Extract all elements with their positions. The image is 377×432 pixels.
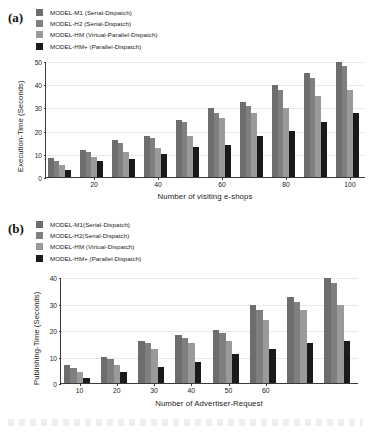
legend-item-label: MODEL-H2 (Serial-Dispatch): [50, 20, 131, 27]
x-tick-label: 60: [218, 181, 226, 188]
bar: [129, 159, 135, 177]
bar: [120, 372, 127, 383]
y-tick-mark: [44, 178, 47, 179]
panel-a-y-axis-title: Execution-Time (Seconds): [16, 80, 25, 172]
x-tick-label: 30: [150, 387, 158, 394]
bar: [269, 349, 276, 383]
y-tick-mark: [59, 384, 62, 385]
x-tick-label: 50: [225, 387, 233, 394]
bar: [161, 154, 167, 177]
legend-item-label: MODEL-M1(Serial-Dispatch): [50, 221, 130, 228]
bar: [83, 378, 90, 383]
bar: [232, 354, 239, 383]
bar: [195, 362, 202, 383]
legend-item: MODEL-H2(Serial-Dispatch): [36, 230, 141, 241]
y-tick-mark: [59, 358, 62, 359]
bar: [225, 145, 231, 177]
panel-b-y-axis-title: Publishing-Time (Seconds): [32, 292, 41, 385]
x-tick-label: 40: [188, 387, 196, 394]
y-tick-mark: [59, 278, 62, 279]
y-tick-label: 30: [50, 301, 57, 308]
legend-item: MODEL-HM (Virtual-Dispatch): [36, 241, 141, 252]
bar: [97, 161, 103, 177]
legend-swatch-icon: [36, 9, 43, 16]
x-tick-label: 40: [154, 181, 162, 188]
bar: [65, 170, 71, 177]
y-tick-mark: [59, 331, 62, 332]
legend-swatch-icon: [36, 20, 43, 27]
x-tick-mark: [117, 383, 118, 386]
legend-item-label: MODEL-H2(Serial-Dispatch): [50, 232, 129, 239]
legend-item-label: MODEL-HM+ (Parallel-Dispatch): [50, 43, 141, 50]
y-tick-mark: [44, 62, 47, 63]
y-tick-mark: [44, 132, 47, 133]
bar: [289, 131, 295, 177]
gridline: [61, 278, 358, 279]
panel-a-tag: (a): [8, 10, 23, 26]
x-tick-label: 20: [90, 181, 98, 188]
gridline: [46, 62, 365, 63]
panel-b: (b) MODEL-M1(Serial-Dispatch) MODEL-H2(S…: [0, 216, 377, 432]
x-tick-label: 100: [344, 181, 355, 188]
x-tick-mark: [350, 177, 351, 180]
panel-a-legend: MODEL-M1 (Serial-Dispatch) MODEL-H2 (Ser…: [36, 7, 158, 52]
legend-swatch-icon: [36, 255, 43, 262]
x-tick-mark: [80, 383, 81, 386]
legend-swatch-icon: [36, 232, 43, 239]
x-tick-mark: [266, 383, 267, 386]
x-tick-label: 10: [76, 387, 84, 394]
legend-item: MODEL-H2 (Serial-Dispatch): [36, 18, 158, 29]
bar: [213, 330, 220, 383]
gridline: [46, 85, 365, 86]
y-tick-mark: [44, 155, 47, 156]
y-tick-label: 10: [35, 151, 42, 158]
x-tick-mark: [154, 383, 155, 386]
y-tick-mark: [44, 85, 47, 86]
x-tick-mark: [158, 177, 159, 180]
bar: [324, 278, 331, 383]
bar: [175, 335, 182, 383]
y-tick-mark: [44, 108, 47, 109]
x-tick-label: 20: [113, 387, 121, 394]
legend-item: MODEL-M1(Serial-Dispatch): [36, 219, 141, 230]
x-tick-mark: [222, 177, 223, 180]
legend-item: MODEL-HM+ (Parallel-Dispatch): [36, 253, 141, 264]
panel-b-legend: MODEL-M1(Serial-Dispatch) MODEL-H2(Seria…: [36, 219, 141, 264]
bar: [344, 341, 351, 383]
x-tick-mark: [229, 383, 230, 386]
legend-item-label: MODEL-M1 (Serial-Dispatch): [50, 9, 132, 16]
bar: [307, 343, 314, 383]
bar: [257, 136, 263, 177]
y-tick-label: 0: [38, 175, 42, 182]
panel-a: (a) MODEL-M1 (Serial-Dispatch) MODEL-H2 …: [0, 0, 377, 216]
y-tick-mark: [59, 305, 62, 306]
legend-swatch-icon: [36, 43, 43, 50]
y-tick-label: 40: [35, 82, 42, 89]
legend-item: MODEL-HM (Virtual-Parallel-Dispatch): [36, 29, 158, 40]
legend-item: MODEL-M1 (Serial-Dispatch): [36, 7, 158, 18]
y-tick-label: 50: [35, 59, 42, 66]
bar: [64, 365, 71, 383]
bar: [193, 147, 199, 177]
x-tick-label: 80: [282, 181, 290, 188]
panel-b-plot-area: 010203040102030405060: [60, 278, 358, 384]
y-tick-label: 20: [35, 128, 42, 135]
legend-item-label: MODEL-HM (Virtual-Parallel-Dispatch): [50, 31, 158, 38]
bar: [287, 297, 294, 383]
x-tick-mark: [286, 177, 287, 180]
panel-a-plot-area: 0102030405020406080100: [45, 62, 365, 178]
y-tick-label: 40: [50, 275, 57, 282]
panel-b-x-axis-title: Number of Advertiser-Request: [60, 399, 358, 408]
bar: [101, 357, 108, 384]
panel-a-x-axis-title: Number of visiting e-shops: [45, 192, 365, 201]
legend-swatch-icon: [36, 31, 43, 38]
bar: [138, 341, 145, 383]
x-tick-mark: [191, 383, 192, 386]
bar: [321, 122, 327, 177]
x-tick-label: 60: [262, 387, 270, 394]
gridline: [61, 331, 358, 332]
legend-item-label: MODEL-HM+ (Parallel-Dispatch): [50, 255, 141, 262]
legend-item: MODEL-HM+ (Parallel-Dispatch): [36, 41, 158, 52]
bar: [158, 367, 165, 383]
legend-swatch-icon: [36, 243, 43, 250]
